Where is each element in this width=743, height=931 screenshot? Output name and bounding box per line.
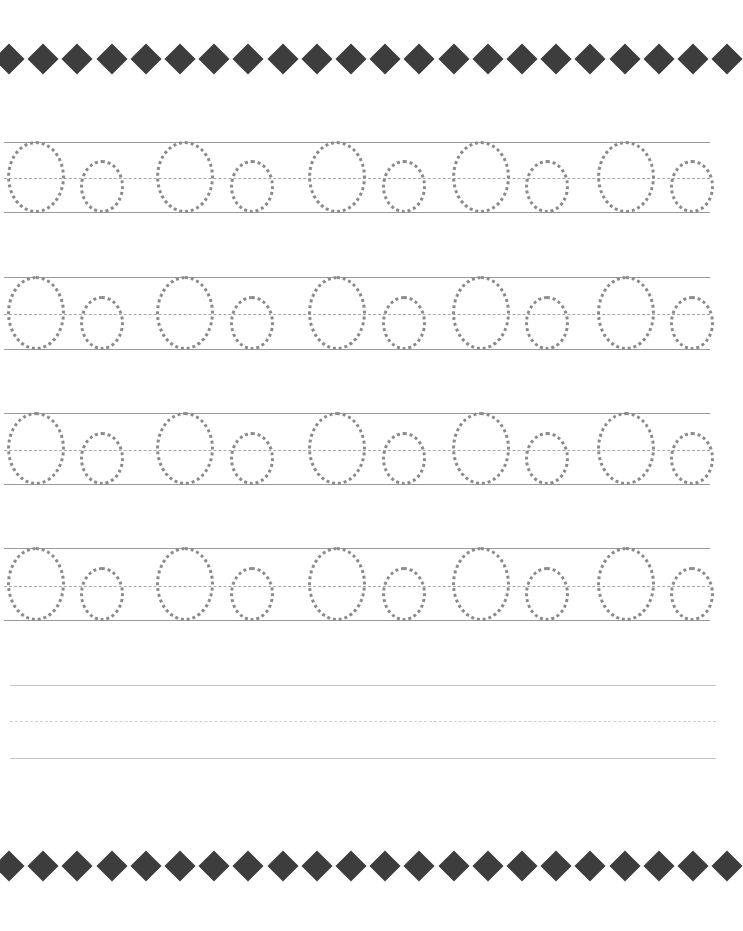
dotted-letter-lowercase-o	[80, 296, 124, 350]
dotted-letter-uppercase-O	[156, 412, 214, 485]
diamond-icon	[301, 43, 332, 74]
diamond-icon	[130, 850, 161, 881]
diamond-icon	[28, 43, 59, 74]
diamond-icon	[96, 850, 127, 881]
dotted-letter-uppercase-O	[7, 276, 65, 350]
diamond-icon	[335, 850, 366, 881]
dotted-letter-lowercase-o	[670, 296, 714, 350]
diamond-icon	[267, 850, 298, 881]
dotted-letter-uppercase-O	[308, 276, 366, 350]
diamond-icon	[370, 850, 401, 881]
dotted-letter-uppercase-O	[7, 412, 65, 485]
dotted-letter-lowercase-o	[525, 567, 569, 621]
diamond-icon	[62, 850, 93, 881]
diamond-icon	[643, 850, 674, 881]
dotted-letter-uppercase-O	[156, 141, 214, 213]
top-guide-line	[4, 277, 710, 278]
dotted-letter-lowercase-o	[525, 296, 569, 350]
dotted-letter-lowercase-o	[670, 432, 714, 485]
dotted-letter-lowercase-o	[230, 567, 274, 621]
baseline	[4, 484, 710, 485]
dotted-letter-lowercase-o	[525, 432, 569, 485]
dotted-letter-uppercase-O	[308, 141, 366, 213]
dotted-letter-uppercase-O	[452, 141, 510, 213]
diamond-icon	[233, 850, 264, 881]
diamond-icon	[541, 850, 572, 881]
dotted-letter-uppercase-O	[597, 547, 655, 621]
diamond-icon	[404, 43, 435, 74]
dotted-letter-lowercase-o	[670, 567, 714, 621]
diamond-icon	[712, 43, 743, 74]
dotted-letter-lowercase-o	[382, 160, 426, 213]
diamond-icon	[506, 850, 537, 881]
diamond-icon	[164, 43, 195, 74]
top-guide-line	[4, 413, 710, 414]
diamond-icon	[506, 43, 537, 74]
dotted-letter-uppercase-O	[7, 547, 65, 621]
diamond-icon	[199, 850, 230, 881]
diamond-icon	[712, 850, 743, 881]
diamond-icon	[370, 43, 401, 74]
diamond-icon	[233, 43, 264, 74]
diamond-icon	[0, 43, 25, 74]
dotted-letter-lowercase-o	[230, 160, 274, 213]
dotted-letter-uppercase-O	[452, 547, 510, 621]
diamond-icon	[130, 43, 161, 74]
bottom-diamond-border	[0, 849, 728, 883]
diamond-icon	[643, 43, 674, 74]
diamond-icon	[575, 850, 606, 881]
dotted-letter-uppercase-O	[156, 276, 214, 350]
diamond-icon	[267, 43, 298, 74]
dotted-letter-lowercase-o	[382, 296, 426, 350]
top-guide-line	[10, 685, 716, 686]
diamond-icon	[164, 850, 195, 881]
diamond-icon	[301, 850, 332, 881]
dotted-letter-lowercase-o	[382, 567, 426, 621]
diamond-icon	[96, 43, 127, 74]
diamond-icon	[575, 43, 606, 74]
top-diamond-border	[0, 42, 728, 76]
dotted-letter-lowercase-o	[230, 296, 274, 350]
dotted-letter-uppercase-O	[308, 412, 366, 485]
dotted-letter-lowercase-o	[230, 432, 274, 485]
dotted-letter-lowercase-o	[525, 160, 569, 213]
baseline	[4, 620, 710, 621]
diamond-icon	[472, 850, 503, 881]
dotted-letter-uppercase-O	[308, 547, 366, 621]
diamond-icon	[438, 43, 469, 74]
dotted-letter-lowercase-o	[382, 432, 426, 485]
midline-dashed	[10, 721, 716, 722]
diamond-icon	[28, 850, 59, 881]
dotted-letter-uppercase-O	[597, 412, 655, 485]
top-guide-line	[4, 548, 710, 549]
diamond-icon	[677, 850, 708, 881]
top-guide-line	[4, 142, 710, 143]
baseline	[10, 758, 716, 759]
dotted-letter-uppercase-O	[452, 412, 510, 485]
dotted-letter-uppercase-O	[597, 141, 655, 213]
dotted-letter-uppercase-O	[156, 547, 214, 621]
diamond-icon	[335, 43, 366, 74]
dotted-letter-uppercase-O	[597, 276, 655, 350]
dotted-letter-uppercase-O	[452, 276, 510, 350]
dotted-letter-lowercase-o	[670, 160, 714, 213]
baseline	[4, 349, 710, 350]
dotted-letter-lowercase-o	[80, 567, 124, 621]
diamond-icon	[199, 43, 230, 74]
diamond-icon	[438, 850, 469, 881]
dotted-letter-lowercase-o	[80, 432, 124, 485]
dotted-letter-uppercase-O	[7, 141, 65, 213]
diamond-icon	[677, 43, 708, 74]
diamond-icon	[541, 43, 572, 74]
diamond-icon	[609, 850, 640, 881]
diamond-icon	[609, 43, 640, 74]
diamond-icon	[404, 850, 435, 881]
baseline	[4, 212, 710, 213]
diamond-icon	[472, 43, 503, 74]
dotted-letter-lowercase-o	[80, 160, 124, 213]
diamond-icon	[62, 43, 93, 74]
diamond-icon	[0, 850, 25, 881]
